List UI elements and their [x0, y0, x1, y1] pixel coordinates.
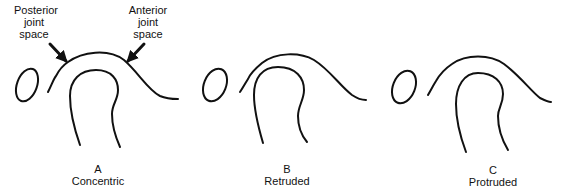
label-line: space — [128, 28, 168, 40]
condyle-c — [456, 73, 508, 152]
fossa-c — [428, 57, 551, 103]
label-line: Anterior — [128, 4, 168, 16]
label-line: Posterior — [14, 4, 54, 16]
condyle-a — [70, 70, 120, 147]
ear-canal-b — [198, 65, 231, 105]
condyle-b — [254, 67, 307, 143]
panel-b-drawing — [198, 54, 366, 143]
anterior-joint-space-label: Anterior joint space — [128, 4, 168, 40]
label-line: joint — [14, 16, 54, 28]
panel-caption-text: Retruded — [257, 175, 317, 187]
anterior-arrow — [128, 44, 144, 61]
panel-letter: A — [68, 163, 128, 175]
panel-a-drawing — [12, 44, 178, 147]
ear-canal-a — [12, 66, 42, 105]
label-line: space — [14, 28, 54, 40]
panel-caption-text: Concentric — [68, 175, 128, 187]
posterior-arrow — [50, 44, 66, 61]
panel-c-caption: C Protruded — [463, 164, 523, 188]
panel-c-drawing — [387, 57, 551, 153]
ear-canal-c — [387, 67, 420, 107]
posterior-joint-space-label: Posterior joint space — [14, 4, 54, 40]
panel-caption-text: Protruded — [463, 176, 523, 188]
label-line: joint — [128, 16, 168, 28]
panel-letter: B — [257, 163, 317, 175]
panel-b-caption: B Retruded — [257, 163, 317, 187]
panel-a-caption: A Concentric — [68, 163, 128, 187]
panel-letter: C — [463, 164, 523, 176]
